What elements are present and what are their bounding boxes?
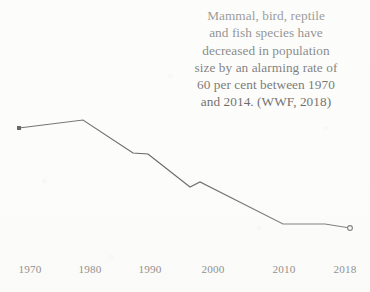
- x-tick-1980: 1980: [78, 262, 101, 276]
- x-tick-2000: 2000: [201, 262, 224, 276]
- caption-line-4: size by an alarming rate of: [172, 59, 360, 76]
- caption-line-5: 60 per cent between 1970: [172, 76, 360, 93]
- x-tick-2018: 2018: [333, 262, 356, 276]
- series-start-marker: [17, 126, 21, 130]
- x-tick-1970: 1970: [18, 262, 41, 276]
- figure-page: Mammal, bird, reptile and fish species h…: [0, 0, 370, 292]
- caption-line-1: Mammal, bird, reptile: [172, 7, 360, 24]
- caption-text-block: Mammal, bird, reptile and fish species h…: [172, 7, 360, 111]
- caption-line-3: decreased in population: [172, 42, 360, 59]
- caption-line-6: and 2014. (WWF, 2018): [172, 93, 360, 110]
- series-end-marker: [348, 226, 353, 231]
- x-tick-2010: 2010: [272, 262, 295, 276]
- x-tick-1990: 1990: [138, 262, 161, 276]
- population-trend-line: [19, 120, 350, 228]
- x-axis-tick-labels: 1970 1980 1990 2000 2010 2018: [0, 262, 370, 284]
- caption-line-2: and fish species have: [172, 24, 360, 41]
